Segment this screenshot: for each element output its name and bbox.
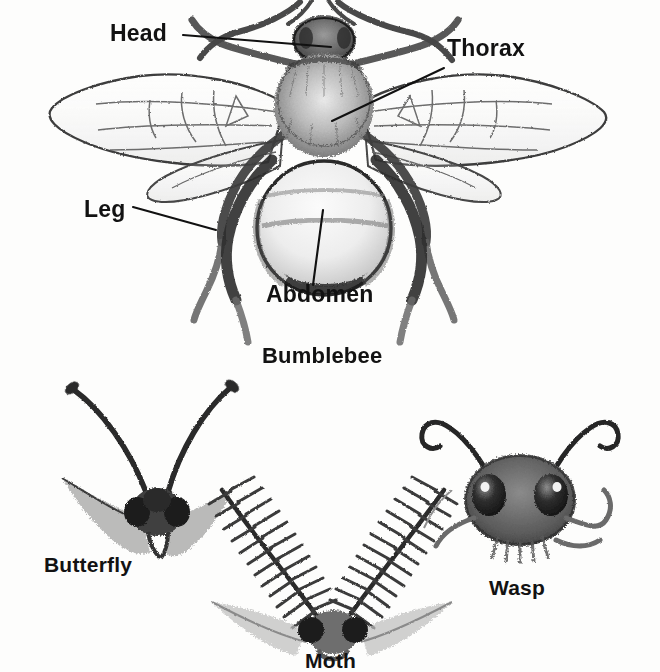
wasp-figure bbox=[422, 422, 618, 564]
diagram-page: Head Thorax Leg Abdomen Bumblebee Butter… bbox=[0, 0, 660, 672]
leader-leg bbox=[133, 207, 216, 230]
bumblebee-thorax bbox=[274, 53, 374, 157]
butterfly-figure bbox=[62, 377, 241, 558]
bumblebee-abdomen bbox=[257, 161, 392, 295]
moth-figure bbox=[209, 477, 457, 659]
label-abdomen: Abdomen bbox=[266, 283, 373, 306]
label-head: Head bbox=[110, 22, 167, 45]
label-leg: Leg bbox=[84, 198, 126, 221]
label-thorax: Thorax bbox=[447, 37, 525, 60]
caption-moth: Moth bbox=[305, 650, 356, 671]
caption-wasp: Wasp bbox=[489, 577, 545, 598]
caption-butterfly: Butterfly bbox=[44, 554, 132, 575]
caption-bumblebee: Bumblebee bbox=[262, 345, 382, 367]
